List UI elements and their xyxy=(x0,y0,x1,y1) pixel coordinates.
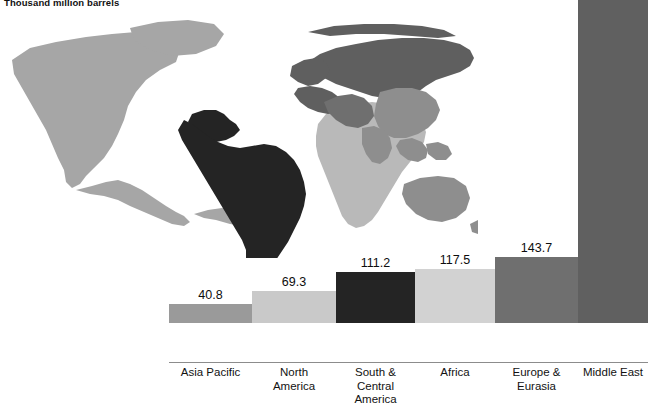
category-label-line: Africa xyxy=(415,366,495,380)
category-label: NorthAmerica xyxy=(252,366,336,393)
bar-column: 117.5 xyxy=(415,0,495,362)
category-label-line: Asia Pacific xyxy=(169,366,252,380)
category-label-line: America xyxy=(252,380,336,394)
bar-column: 143.7 xyxy=(495,0,578,362)
category-label-line: Europe & xyxy=(495,366,578,380)
category-label-line: Central America xyxy=(336,380,415,407)
category-label: Europe &Eurasia xyxy=(495,366,578,393)
bar-series: 40.869.3111.2117.5143.7755.3 xyxy=(169,0,648,362)
bar xyxy=(578,0,648,323)
category-label-line: Eurasia xyxy=(495,380,578,394)
bar xyxy=(415,269,495,323)
category-label: South &Central America xyxy=(336,366,415,407)
bar xyxy=(495,257,578,323)
category-label: Africa xyxy=(415,366,495,380)
bar-value-label: 69.3 xyxy=(252,275,336,289)
bar-column: 40.8 xyxy=(169,0,252,362)
category-label-line: North xyxy=(252,366,336,380)
category-labels: Asia PacificNorthAmericaSouth &Central A… xyxy=(169,366,648,401)
category-label: Middle East xyxy=(578,366,648,380)
bar-column: 755.3 xyxy=(578,0,648,362)
bar xyxy=(252,291,336,323)
bar-value-label: 143.7 xyxy=(495,241,578,255)
category-label: Asia Pacific xyxy=(169,366,252,380)
bar-value-label: 117.5 xyxy=(415,253,495,267)
bar-column: 111.2 xyxy=(336,0,415,362)
bar-value-label: 111.2 xyxy=(336,256,415,270)
bar-value-label: 40.8 xyxy=(169,288,252,302)
x-axis-line xyxy=(169,362,648,363)
category-label-line: Middle East xyxy=(578,366,648,380)
category-label-line: South & xyxy=(336,366,415,380)
bar xyxy=(169,304,252,323)
bar xyxy=(336,272,415,323)
bar-column: 69.3 xyxy=(252,0,336,362)
